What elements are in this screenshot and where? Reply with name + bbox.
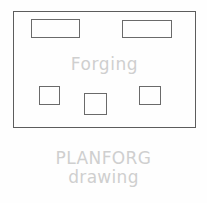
drawing-canvas: Forging PLANFORG drawing: [0, 0, 207, 203]
plan-title-label: Forging: [13, 54, 196, 74]
caption-line-2: drawing: [0, 168, 207, 187]
feature-bottom-left-boss: [39, 86, 60, 105]
caption-line-1: PLANFORG: [0, 149, 207, 168]
feature-bottom-center-boss: [84, 93, 107, 115]
feature-bottom-right-boss: [139, 86, 161, 105]
feature-top-left-pocket: [31, 19, 80, 38]
drawing-caption: PLANFORG drawing: [0, 149, 207, 187]
feature-top-right-pocket: [122, 20, 172, 38]
